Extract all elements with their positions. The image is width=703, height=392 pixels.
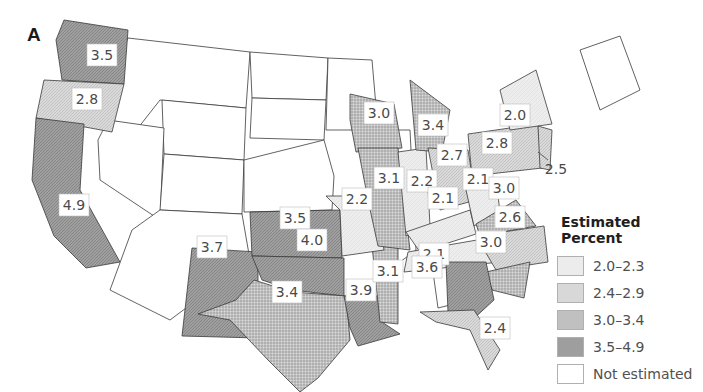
svg-text:2.5: 2.5 xyxy=(545,161,567,177)
svg-text:3.1: 3.1 xyxy=(378,170,400,186)
svg-text:2.2: 2.2 xyxy=(346,191,368,207)
svg-text:2.2: 2.2 xyxy=(411,173,433,189)
svg-text:3.5: 3.5 xyxy=(284,210,306,226)
svg-text:3.4: 3.4 xyxy=(276,284,298,300)
legend-swatch xyxy=(557,283,584,303)
legend: Estimated Percent 2.0–2.3 2.4–2.9 3.0–3.… xyxy=(557,214,703,387)
legend-swatch xyxy=(557,364,584,384)
legend-swatch xyxy=(557,337,584,357)
legend-swatch xyxy=(557,310,584,330)
svg-text:2.8: 2.8 xyxy=(486,135,508,151)
legend-item: Not estimated xyxy=(557,360,703,387)
svg-text:3.9: 3.9 xyxy=(350,282,372,298)
svg-text:2.6: 2.6 xyxy=(499,209,521,225)
svg-text:3.7: 3.7 xyxy=(201,239,223,255)
svg-text:2.0: 2.0 xyxy=(504,107,526,123)
legend-item: 3.5–4.9 xyxy=(557,333,703,360)
svg-text:2.8: 2.8 xyxy=(76,91,98,107)
legend-swatch xyxy=(557,256,584,276)
svg-text:3.0: 3.0 xyxy=(493,180,515,196)
svg-text:2.1: 2.1 xyxy=(467,171,489,187)
svg-text:3.0: 3.0 xyxy=(368,105,390,121)
svg-text:3.1: 3.1 xyxy=(377,263,399,279)
svg-text:4.9: 4.9 xyxy=(63,197,85,213)
svg-text:3.0: 3.0 xyxy=(480,234,502,250)
svg-text:2.4: 2.4 xyxy=(484,320,506,336)
svg-text:3.6: 3.6 xyxy=(416,259,438,275)
svg-text:3.5: 3.5 xyxy=(91,47,113,63)
legend-item: 2.0–2.3 xyxy=(557,252,703,279)
svg-text:3.4: 3.4 xyxy=(422,117,444,133)
legend-item: 2.4–2.9 xyxy=(557,279,703,306)
svg-text:2.7: 2.7 xyxy=(441,147,463,163)
legend-item: 3.0–3.4 xyxy=(557,306,703,333)
svg-text:2.1: 2.1 xyxy=(432,190,454,206)
legend-title: Estimated Percent xyxy=(561,214,703,246)
svg-text:4.0: 4.0 xyxy=(301,232,323,248)
